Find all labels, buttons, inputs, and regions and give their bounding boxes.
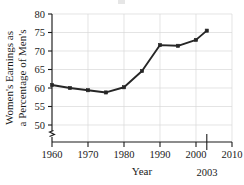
y-axis-title-line1: Women's Earnings as [3,31,15,125]
data-point-marker [140,69,143,72]
x-axis-annotation-2003: 2003 [197,167,218,178]
y-tick-label-70: 70 [35,46,46,57]
y-tick-marks [48,14,52,125]
y-axis-break-icon [50,131,55,137]
x-tick-labels: 1960 1970 1980 1990 2000 2010 [42,149,243,160]
y-axis-title-line2: a Percentage of Men's [16,30,28,127]
chart-figure: 80 75 70 65 60 55 50 1960 1970 1980 1990… [0,0,244,185]
y-tick-labels: 80 75 70 65 60 55 50 [35,9,46,131]
data-point-marker [205,29,208,32]
data-series-markers [50,29,208,94]
line-chart: 80 75 70 65 60 55 50 1960 1970 1980 1990… [0,0,244,185]
y-tick-label-60: 60 [35,83,46,94]
data-point-marker [158,43,161,46]
data-point-marker [122,86,125,89]
data-point-marker [50,83,53,86]
y-axis [50,14,55,142]
data-point-marker [176,44,179,47]
y-tick-label-55: 55 [35,101,46,112]
y-tick-label-80: 80 [35,9,46,20]
x-tick-label-2000: 2000 [186,149,207,160]
x-tick-label-1960: 1960 [42,149,63,160]
y-tick-label-65: 65 [35,64,46,75]
y-axis-title: Women's Earnings as a Percentage of Men'… [3,30,28,127]
x-tick-label-2010: 2010 [222,149,243,160]
x-axis-title: Year [132,165,153,177]
data-point-marker [104,91,107,94]
x-tick-label-1970: 1970 [78,149,99,160]
data-point-marker [68,86,71,89]
x-tick-label-1990: 1990 [150,149,171,160]
x-tick-label-1980: 1980 [114,149,135,160]
y-tick-label-50: 50 [35,120,46,131]
data-point-marker [86,89,89,92]
cropped-title-artifact [118,0,125,4]
data-series-line [52,31,207,93]
y-tick-label-75: 75 [35,27,46,38]
data-point-marker [194,38,197,41]
